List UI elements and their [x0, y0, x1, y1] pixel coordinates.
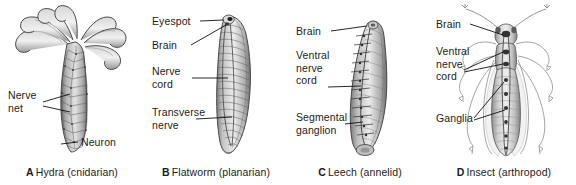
caption-text: Insect (arthropod)	[467, 166, 552, 178]
caption-letter: B	[162, 166, 170, 178]
insect-labels: Brain Ventral nerve cord Ganglia	[432, 0, 576, 165]
label-brain: Brain	[152, 39, 177, 52]
panel-leech: Brain Ventral nerve cord Segmental gangl…	[288, 0, 432, 185]
panel-flatworm: Eyespot Brain Nerve cord Transverse nerv…	[144, 0, 288, 185]
label-nerve-net: Nerve net	[8, 89, 37, 114]
leech-labels: Brain Ventral nerve cord Segmental gangl…	[288, 0, 432, 165]
label-segmental-ganglion: Segmental ganglion	[296, 111, 347, 136]
label-eyespot: Eyespot	[152, 15, 191, 28]
label-ventral-nerve-cord: Ventral nerve cord	[296, 49, 329, 87]
caption-letter: A	[26, 166, 34, 178]
label-brain: Brain	[296, 25, 321, 38]
caption-insect: DInsect (arthropod)	[432, 166, 576, 178]
panel-insect: Brain Ventral nerve cord Ganglia DInsect…	[432, 0, 576, 185]
label-transverse-nerve: Transverse nerve	[152, 106, 205, 131]
label-neuron: Neuron	[81, 136, 116, 149]
caption-text: Leech (annelid)	[328, 166, 402, 178]
label-nerve-cord: Nerve cord	[152, 65, 181, 90]
label-ventral-nerve-cord: Ventral nerve cord	[436, 45, 469, 83]
label-ganglia: Ganglia	[436, 112, 473, 125]
caption-letter: D	[457, 166, 465, 178]
caption-text: Flatworm (planarian)	[172, 166, 270, 178]
label-brain: Brain	[436, 18, 461, 31]
caption-flatworm: BFlatworm (planarian)	[144, 166, 288, 178]
hydra-labels: Nerve net Neuron	[0, 0, 144, 165]
flatworm-labels: Eyespot Brain Nerve cord Transverse nerv…	[144, 0, 288, 165]
caption-letter: C	[318, 166, 326, 178]
panel-hydra: Nerve net Neuron AHydra (cnidarian)	[0, 0, 144, 185]
caption-leech: CLeech (annelid)	[288, 166, 432, 178]
caption-text: Hydra (cnidarian)	[36, 166, 118, 178]
invertebrate-nervous-system-figure: Nerve net Neuron AHydra (cnidarian)	[0, 0, 576, 185]
caption-hydra: AHydra (cnidarian)	[0, 166, 144, 178]
